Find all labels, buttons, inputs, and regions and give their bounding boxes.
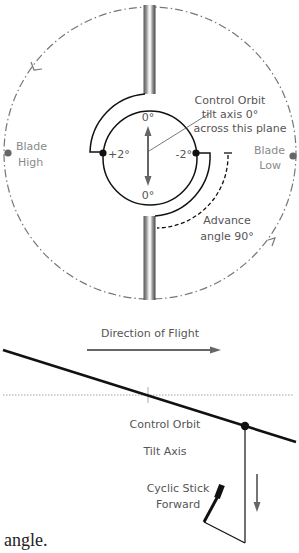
control-orbit-label: Control Orbit: [195, 94, 266, 107]
arrow-down-icon: [145, 176, 152, 186]
down-arrow-icon: [254, 502, 261, 512]
blade-high-label-2: High: [18, 156, 43, 169]
tilt-axis-label-2: Tilt Axis: [142, 445, 186, 458]
tilt-axis-label: tilt axis 0°: [202, 108, 258, 121]
advance-label-2: angle 90°: [200, 230, 254, 243]
flight-arrow-head-icon: [210, 347, 221, 354]
upper-shaft: [144, 5, 156, 94]
cyclic-label-1: Cyclic Stick: [147, 482, 210, 495]
blade-high-label-1: Blade: [16, 140, 47, 153]
top-angle-label: 0°: [142, 111, 155, 124]
left-angle-label: +2°: [108, 148, 130, 161]
tilt-axis-label-1: Control Orbit: [130, 418, 201, 431]
outer-guide-left: [90, 94, 145, 152]
linkage-diagonal: [204, 522, 245, 543]
rotor-control-diagram: Control Orbit tilt axis 0° across this p…: [0, 0, 299, 553]
direction-of-flight-label: Direction of Flight: [101, 327, 200, 340]
bottom-angle-label: 0°: [142, 189, 155, 202]
right-orbit-dot: [192, 149, 199, 156]
advance-label-1: Advance: [203, 214, 251, 227]
cyclic-stick: [204, 496, 218, 522]
rotation-arrow-lower-right-icon: [268, 238, 275, 246]
right-angle-label: -2°: [176, 148, 192, 161]
arrow-up-icon: [145, 126, 152, 136]
caption-text: angle.: [4, 530, 47, 551]
blade-low-label-1: Blade: [254, 144, 285, 157]
blade-high-dot: [4, 149, 11, 156]
lower-shaft: [144, 216, 156, 300]
outer-guide-right: [155, 153, 210, 216]
across-plane-label: across this plane: [194, 122, 287, 135]
blade-low-dot: [289, 152, 296, 159]
cyclic-stick-grip: [217, 485, 222, 498]
rotation-arrow-upper-left-icon: [31, 62, 42, 70]
left-orbit-dot: [99, 149, 106, 156]
blade-low-label-2: Low: [259, 159, 281, 172]
cyclic-label-2: Forward: [156, 498, 200, 511]
